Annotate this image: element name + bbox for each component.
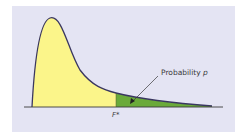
f-distribution-diagram [0,0,251,137]
critical-value-label: F* [112,111,120,119]
probability-label: Probability p [161,68,208,77]
left-area [32,18,116,107]
pointer-arrow-line [132,76,158,102]
